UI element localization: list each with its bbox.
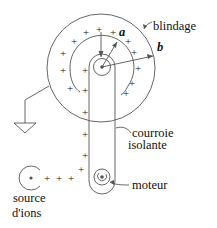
ground-icon — [14, 123, 36, 133]
van-de-graaff-diagram: + + + + + + + + + + + + + + + + + + + + … — [0, 0, 217, 228]
label-a: a — [119, 25, 125, 39]
ground-wire — [25, 86, 49, 123]
svg-text:+: + — [82, 106, 88, 118]
svg-text:+: + — [83, 26, 89, 38]
center-dot — [100, 65, 104, 69]
svg-text:+: + — [96, 23, 102, 35]
svg-text:+: + — [82, 84, 88, 96]
label-dions: d'ions — [12, 206, 41, 220]
svg-text:+: + — [44, 172, 50, 184]
svg-text:+: + — [67, 82, 73, 94]
svg-text:+: + — [56, 172, 62, 184]
svg-text:+: + — [68, 172, 74, 184]
label-moteur: moteur — [132, 178, 168, 192]
svg-text:+: + — [71, 35, 77, 47]
arrow-b — [102, 56, 153, 67]
motor-dot — [100, 175, 104, 179]
leader-courroie — [116, 127, 131, 133]
svg-text:+: + — [82, 149, 88, 161]
label-source: source — [13, 191, 46, 205]
svg-text:+: + — [82, 64, 88, 76]
svg-text:+: + — [135, 62, 141, 74]
label-isolante: isolante — [128, 138, 167, 152]
insulating-belt — [89, 54, 115, 194]
svg-text:+: + — [60, 47, 66, 59]
svg-text:+: + — [82, 128, 88, 140]
label-blindage: blindage — [153, 19, 196, 33]
svg-text:+: + — [60, 64, 66, 76]
svg-text:+: + — [110, 26, 116, 38]
svg-text:+: + — [129, 77, 135, 89]
svg-text:+: + — [131, 46, 137, 58]
source-dot — [29, 176, 32, 179]
svg-text:+: + — [78, 163, 84, 175]
label-b: b — [157, 40, 163, 54]
svg-text:+: + — [123, 87, 129, 99]
